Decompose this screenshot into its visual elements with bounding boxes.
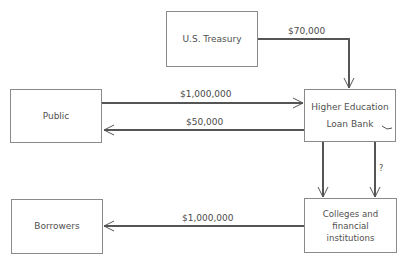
node-colleges-and-financial-institutions: Colleges and financial institutions <box>304 198 397 253</box>
node-label: Borrowers <box>34 218 80 235</box>
flow-label-bank-to-public: $50,000 <box>186 117 223 127</box>
node-label: Public <box>43 108 70 125</box>
scribble-mark-icon <box>381 124 393 132</box>
flow-label-colleges-to-borrowers: $1,000,000 <box>182 213 234 223</box>
flow-label-unknown: ? <box>379 164 383 173</box>
node-us-treasury: U.S. Treasury <box>166 11 258 67</box>
node-label-line2: Loan Bank <box>326 116 373 133</box>
flow-label-public-to-bank: $1,000,000 <box>180 89 232 99</box>
node-label: U.S. Treasury <box>182 31 241 48</box>
node-label-line1: Higher Education <box>311 99 389 116</box>
arrow-treasury-to-bank <box>258 39 349 88</box>
flow-label-treasury-to-bank: $70,000 <box>288 26 325 36</box>
node-public: Public <box>10 89 102 143</box>
node-higher-education-loan-bank: Higher Education Loan Bank <box>304 89 396 142</box>
node-label-line2: institutions <box>327 232 375 244</box>
node-borrowers: Borrowers <box>11 199 103 254</box>
node-label-line1: Colleges and financial <box>305 208 396 232</box>
